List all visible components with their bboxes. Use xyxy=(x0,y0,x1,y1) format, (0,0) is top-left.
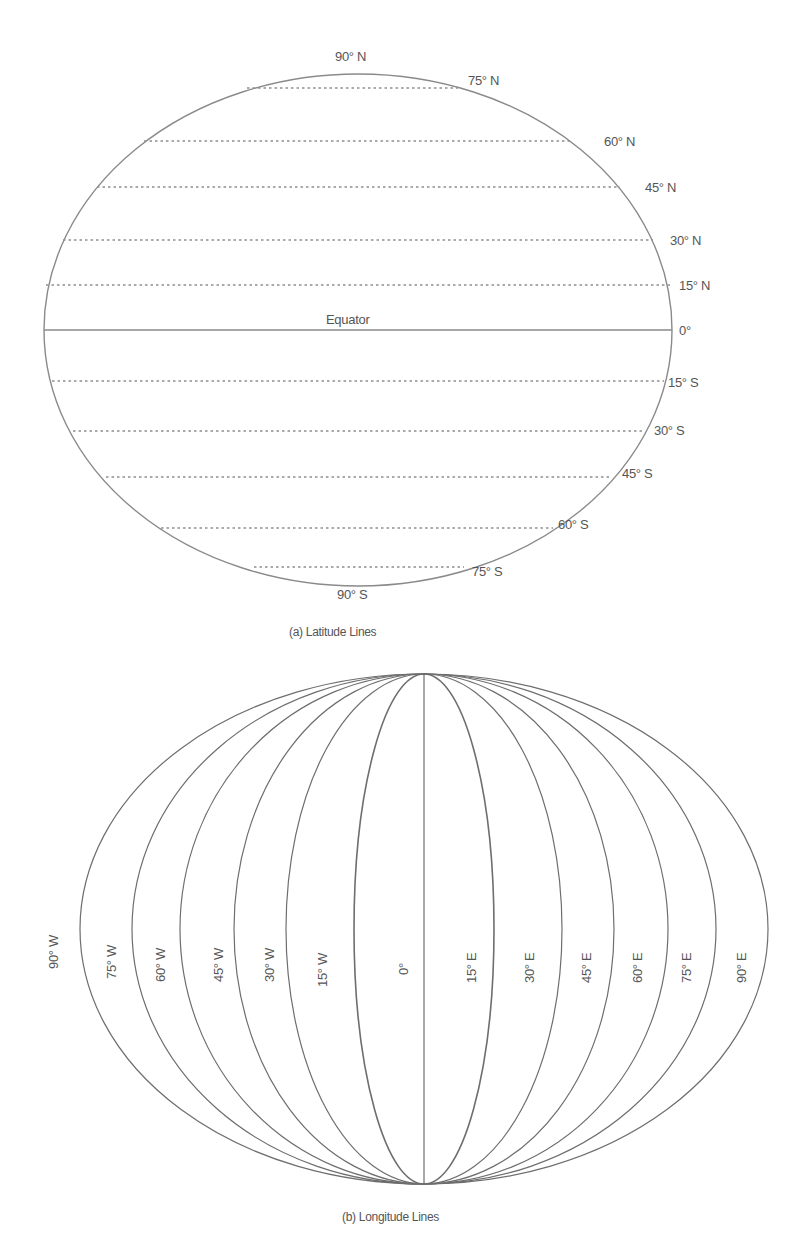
latitude-label-15n: 15° N xyxy=(679,278,710,293)
latitude-label-75s: 75° S xyxy=(472,564,503,579)
latitude-label-45n: 45° N xyxy=(645,180,676,195)
latitude-label-60s: 60° S xyxy=(558,517,589,532)
latitude-diagram: Equator 90° N 75° N 60° N 45° N 30° N 15… xyxy=(44,49,710,639)
latitude-label-45s: 45° S xyxy=(622,466,653,481)
longitude-label-60e: 60° E xyxy=(630,952,645,983)
longitude-label-30e: 30° E xyxy=(522,952,537,983)
longitude-label-90w: 90° W xyxy=(46,934,61,969)
latitude-label-60n: 60° N xyxy=(604,134,635,149)
latitude-caption: (a) Latitude Lines xyxy=(289,625,377,639)
latitude-label-90s: 90° S xyxy=(337,587,368,602)
longitude-label-60w: 60° W xyxy=(153,947,168,982)
longitude-diagram: 90° W 75° W 60° W 45° W 30° W 15° W 0° 1… xyxy=(46,674,768,1224)
latitude-label-30s: 30° S xyxy=(654,423,685,438)
longitude-label-0: 0° xyxy=(396,963,411,975)
longitude-label-90e: 90° E xyxy=(734,952,749,983)
longitude-caption: (b) Longitude Lines xyxy=(342,1210,439,1224)
longitude-label-30w: 30° W xyxy=(262,947,277,982)
latitude-label-0: 0° xyxy=(679,323,691,338)
latitude-label-30n: 30° N xyxy=(670,233,701,248)
longitude-label-45w: 45° W xyxy=(211,947,226,982)
longitude-label-75e: 75° E xyxy=(679,952,694,983)
longitude-label-45e: 45° E xyxy=(579,952,594,983)
latitude-label-15s: 15° S xyxy=(668,375,699,390)
equator-label: Equator xyxy=(326,312,370,327)
longitude-label-15e: 15° E xyxy=(464,952,479,983)
longitude-label-15w: 15° W xyxy=(315,952,330,987)
figure-canvas: Equator 90° N 75° N 60° N 45° N 30° N 15… xyxy=(0,0,796,1256)
latitude-label-75n: 75° N xyxy=(468,73,499,88)
latitude-label-90n: 90° N xyxy=(335,49,366,64)
longitude-label-75w: 75° W xyxy=(104,944,119,979)
